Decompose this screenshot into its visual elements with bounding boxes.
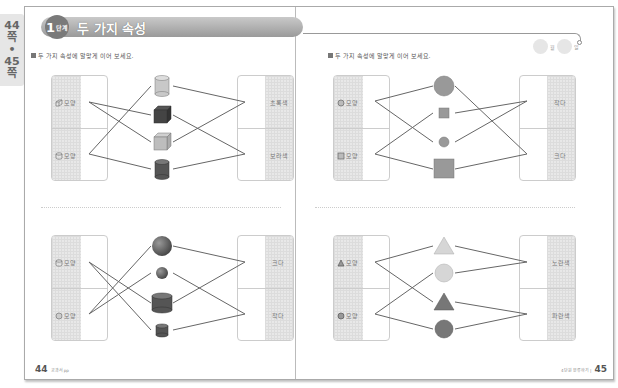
panel-1-figure [51, 75, 321, 185]
page-side-tab: 44 쪽 • 45 쪽 [0, 14, 24, 86]
page-number-right: 45 [594, 364, 607, 374]
matching-panel-2: 모양 모양 크다 작다 [51, 235, 321, 365]
day-field[interactable] [557, 39, 572, 54]
bullet-square-icon [31, 53, 36, 58]
panel-4-figure [333, 235, 603, 345]
cylinder-small-shape [156, 324, 168, 337]
panel-3-figure [333, 75, 603, 185]
panel-2-figure [51, 235, 321, 345]
step-number: 1 [46, 20, 55, 35]
step-badge: 1단계 [45, 15, 69, 39]
header-rule [303, 33, 571, 34]
bullet-square-icon [328, 53, 333, 58]
footer-right: 4단원 분류하기 | 45 [561, 364, 607, 374]
square-small-shape [439, 108, 449, 118]
circle-dark-shape [435, 320, 453, 338]
cube-shape-dark [154, 106, 171, 123]
cube-shape-light [154, 133, 171, 150]
page-number-left: 44 [35, 364, 48, 374]
matching-panel-4: 모양 모양 노란색 파란색 [333, 235, 603, 365]
step-suffix: 단계 [56, 23, 68, 32]
triangle-light-shape [434, 237, 454, 254]
cylinder-shape [155, 76, 169, 97]
cylinder-large-shape [152, 293, 172, 313]
footer-caption-right: 4단원 분류하기 | [561, 367, 591, 373]
triangle-dark-shape [434, 293, 454, 310]
section-separator [41, 207, 281, 208]
month-label: 월 [550, 43, 555, 50]
cylinder-shape-dark [155, 160, 169, 180]
day-label: 일 [574, 43, 579, 50]
square-large-shape [434, 159, 454, 178]
page-title: 두 가지 속성 [77, 18, 146, 37]
circle-large-shape [434, 76, 454, 96]
footer-caption-left: 교과서 pp [51, 367, 69, 373]
textbook-spread: 1단계 두 가지 속성 월 일 두 가지 속성에 알맞게 이어 보세요. 두 가… [24, 6, 614, 380]
sphere-small-shape [156, 267, 168, 279]
date-fields: 월 일 [533, 39, 579, 54]
side-tab-unit-to: 쪽 [7, 68, 17, 80]
section-separator [315, 207, 575, 208]
matching-panel-3: 모양 모양 작다 크다 [333, 75, 603, 205]
circle-light-shape [435, 264, 453, 282]
instruction-right: 두 가지 속성에 알맞게 이어 보세요. [328, 51, 430, 60]
instruction-left: 두 가지 속성에 알맞게 이어 보세요. [31, 51, 133, 60]
matching-panel-1: 모양 모양 초록색 보라색 [51, 75, 321, 205]
month-field[interactable] [533, 39, 548, 54]
footer-left: 44 교과서 pp [35, 364, 69, 374]
sphere-large-shape [152, 236, 172, 256]
circle-small-shape [439, 137, 449, 147]
